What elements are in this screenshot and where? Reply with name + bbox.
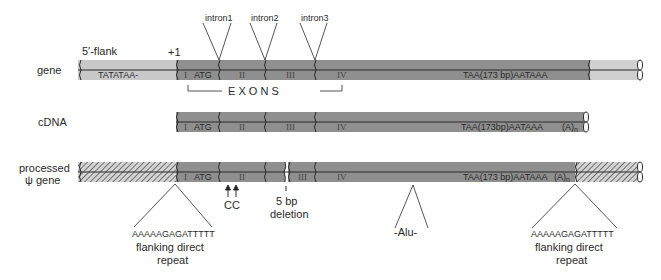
pseudogene-label-line2: ψ gene [25,174,60,186]
gene-row: gene 5′-flank +1 TATATAA- I ATG II III I… [37,13,643,97]
intron-3-label: intron3 [301,13,329,23]
cdna-tail-sequence: TAA(173bp)AATAAA [461,122,543,132]
atg-label: ATG [194,122,212,132]
intron-markers [203,23,327,60]
left-repeat-sequence: AAAAAGAGATTTTT [132,229,215,239]
exon-2-label: II [239,122,245,132]
left-repeat-label-line2: repeat [157,254,188,266]
pseudogene-row: processed ψ gene I ATG II III IV TAA(173… [19,162,643,266]
pseudogene-label-line1: processed [19,162,70,174]
right-repeat-marker [532,184,617,228]
deletion-label-line2: deletion [270,208,309,220]
exon-2-label: II [239,172,245,182]
left-repeat-marker [134,184,212,227]
atg-label: ATG [194,172,212,182]
pseudogene-tail-sequence: TAA(173 bp)AATAAA [463,172,548,182]
right-repeat-label-line1: flanking direct [535,241,603,253]
intron-1-label: intron1 [205,13,233,23]
cc-mutation-arrows [226,185,239,197]
cdna-end-cap-top [584,112,589,122]
alu-insertion-marker [395,185,428,228]
exon-4-label: IV [337,172,347,182]
intron-2-label: intron2 [251,13,279,23]
left-repeat-label-line1: flanking direct [136,241,204,253]
cdna-row-label: cDNA [38,116,67,128]
right-end-cap-bottom [638,172,643,182]
exons-bracket-label: E X O N S [228,85,279,97]
cdna-row: cDNA I ATG II III IV TAA(173bp)AATAAA (A… [38,112,589,133]
cc-label: CC [224,199,240,211]
tata-box-label: TATATAA- [98,70,138,80]
five-prime-flank-label: 5′-flank [82,45,118,57]
atg-label: ATG [194,70,212,80]
exon-1-label: I [184,122,187,132]
right-repeat-sequence: AAAAAGAGATTTTT [531,229,614,239]
deletion-label-line1: 5 bp [276,195,297,207]
cdna-end-cap-bottom [584,122,589,132]
gene-row-label: gene [37,64,61,76]
gene-tail-sequence: TAA(173 bp)AATAAA [463,70,548,80]
exon-1-label: I [184,70,187,80]
right-end-cap-top [638,60,643,70]
plus-one-label: +1 [168,46,181,58]
right-repeat-label-line2: repeat [556,254,587,266]
exon-4-label: IV [337,70,347,80]
gene-structure-diagram: gene 5′-flank +1 TATATAA- I ATG II III I… [0,0,661,280]
alu-label: -Alu- [394,226,418,238]
exon-4-label: IV [337,122,347,132]
exon-3-label: III [286,70,295,80]
right-end-cap-bottom [638,70,643,80]
right-end-cap-top [638,162,643,172]
exon-3-label: III [286,122,295,132]
exon-3-label: III [298,172,307,182]
exon-1-label: I [184,172,187,182]
exon-2-label: II [239,70,245,80]
